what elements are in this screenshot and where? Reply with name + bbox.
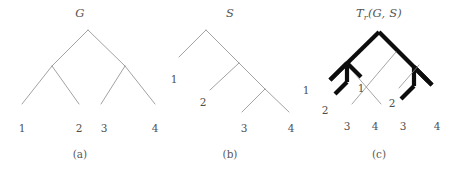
panel-a-leaf-2: 2 (71, 122, 87, 134)
edge-bold-left-ridge (347, 63, 361, 77)
edge-internal2-internal3 (239, 63, 265, 89)
edge-root-leaf1 (179, 30, 206, 57)
panel-b-leaf-1: 1 (166, 73, 182, 85)
panel-a-leaf-1: 1 (14, 122, 30, 134)
edge-left-leaf1 (22, 66, 52, 104)
edge-internal3-leaf4 (265, 89, 289, 112)
edge-bold-right-ridge (414, 67, 428, 81)
panel-gene-tree: G 1 2 3 4 (a) (0, 0, 160, 174)
panel-c-leaf-3a: 3 (339, 120, 355, 132)
panel-c-caption: (c) (295, 148, 463, 160)
edge-bold-left-leaf2 (335, 82, 347, 94)
edge-gene-center-stem (379, 52, 396, 72)
panel-c-label-mid-2: 2 (384, 97, 400, 109)
panel-a-caption: (a) (0, 148, 160, 160)
panel-c-leaf-4b: 4 (429, 120, 445, 132)
panel-c-label-left-1: 1 (298, 84, 314, 96)
edge-root-internal2 (206, 30, 239, 63)
panel-c-label-mid-1: 1 (353, 82, 369, 94)
edge-right-leaf3 (101, 66, 125, 104)
panel-b-leaf-3: 3 (236, 122, 252, 134)
edge-bold-left-tick (330, 63, 347, 80)
panel-c-leaf-4a: 4 (367, 120, 383, 132)
panel-a-leaf-3: 3 (96, 122, 112, 134)
edge-root-right (88, 30, 125, 66)
panel-c-label-left-2: 2 (317, 104, 333, 116)
edge-bold-right-leaf3 (401, 86, 414, 99)
edge-left-leaf2 (52, 66, 79, 104)
panel-reconciliation-tree: Tr(G, S) (295, 0, 463, 174)
tree-reconciliation-figure: G 1 2 3 4 (a) S (0, 0, 463, 174)
panel-b-leaf-2: 2 (195, 96, 211, 108)
panel-c-leaf-3b: 3 (395, 120, 411, 132)
panel-b-caption: (b) (155, 148, 305, 160)
edge-root-left (52, 30, 88, 66)
edge-internal2-leaf2 (210, 63, 239, 90)
edge-internal3-leaf3 (242, 89, 265, 112)
panel-species-tree: S 1 2 3 4 (b) (155, 0, 305, 174)
edge-right-leaf4 (125, 66, 155, 104)
